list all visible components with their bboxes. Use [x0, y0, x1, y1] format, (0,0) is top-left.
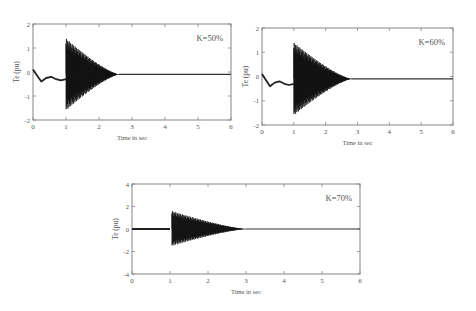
x-axis-label: Time in sec — [342, 139, 372, 146]
x-axis-label: Time in sec — [117, 134, 147, 141]
x-tick-label: 6 — [358, 277, 362, 285]
x-tick-label: 5 — [196, 123, 200, 131]
y-tick-label: 4 — [126, 181, 130, 188]
y-tick-label: 2 — [126, 203, 129, 210]
x-tick-label: 3 — [130, 123, 134, 131]
oscillation-trace — [66, 39, 119, 109]
x-tick-label: 1 — [64, 123, 68, 131]
chart-panel-2: 0123456210-1-2Time in secTe (pu)K=60% — [241, 25, 455, 147]
x-tick-label: 0 — [260, 128, 264, 136]
x-tick-label: 5 — [419, 128, 423, 136]
y-tick-label: 1 — [256, 49, 259, 56]
x-tick-label: 2 — [206, 277, 210, 285]
k-annotation: K=60% — [418, 37, 445, 47]
y-axis-label: Te (pu) — [111, 218, 120, 240]
y-tick-label: -1 — [25, 93, 30, 100]
x-tick-label: 1 — [168, 277, 172, 285]
x-tick-label: 0 — [31, 123, 35, 131]
y-tick-label: -2 — [254, 122, 259, 129]
x-tick-label: 4 — [163, 123, 167, 131]
y-axis-label: Te (pu) — [241, 65, 250, 87]
y-tick-label: 2 — [256, 25, 259, 32]
x-tick-label: 4 — [388, 128, 392, 136]
y-tick-label: 2 — [27, 21, 30, 28]
oscillation-trace — [294, 43, 351, 114]
x-tick-label: 6 — [451, 128, 455, 136]
x-tick-label: 3 — [244, 277, 248, 285]
x-tick-label: 0 — [130, 277, 134, 285]
y-tick-label: 1 — [27, 45, 30, 52]
y-tick-label: 0 — [126, 226, 129, 233]
k-annotation: K=70% — [325, 193, 352, 203]
y-tick-label: 0 — [27, 69, 30, 76]
x-tick-label: 1 — [292, 128, 296, 136]
x-tick-label: 3 — [356, 128, 360, 136]
x-tick-label: 5 — [320, 277, 324, 285]
y-tick-label: 0 — [256, 73, 259, 80]
y-tick-label: -2 — [25, 117, 30, 124]
y-tick-label: -2 — [124, 248, 129, 255]
pre-fault-trace — [33, 70, 66, 82]
k-annotation: K=50% — [196, 33, 223, 43]
x-tick-label: 4 — [282, 277, 286, 285]
y-axis-label: Te (pu) — [12, 61, 21, 83]
x-tick-label: 2 — [324, 128, 328, 136]
charts-canvas: 0123456210-1-2Time in secTe (pu)K=50%012… — [0, 0, 476, 311]
x-tick-label: 2 — [97, 123, 101, 131]
pre-fault-trace — [262, 74, 294, 86]
x-tick-label: 6 — [229, 123, 233, 131]
y-tick-label: -4 — [124, 271, 130, 278]
chart-panel-1: 0123456210-1-2Time in secTe (pu)K=50% — [12, 21, 233, 142]
y-tick-label: -1 — [254, 97, 259, 104]
oscillation-trace — [172, 211, 246, 245]
chart-panel-3: 0123456420-2-4Time in secTe (pu)K=70% — [111, 181, 362, 296]
x-axis-label: Time in sec — [231, 288, 261, 295]
